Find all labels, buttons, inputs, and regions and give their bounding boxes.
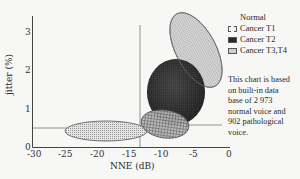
ellipse-normal [65, 121, 147, 141]
y-tick-2: 2 [25, 65, 31, 75]
legend-label-cancer-t2: Cancer T2 [240, 34, 275, 45]
y-axis-label: jitter (%) [4, 54, 14, 95]
note-line-2: on built-in data [228, 86, 300, 97]
x-tick-minus30: -30 [27, 149, 42, 159]
legend-item-cancer-t3t4: Cancer T3,T4 [228, 45, 287, 56]
x-tick-minus5: -5 [189, 149, 198, 159]
legend-swatch-cancer-t3t4-icon [228, 48, 237, 54]
legend-item-normal: Normal [228, 12, 287, 23]
legend-label-cancer-t3t4: Cancer T3,T4 [240, 45, 287, 56]
note-line-3: base of 2 973 [228, 96, 300, 107]
x-tick-minus20: -20 [90, 149, 105, 159]
legend-label-normal: Normal [240, 12, 266, 23]
legend-swatch-normal-icon [228, 26, 237, 32]
y-tick-1: 1 [25, 104, 31, 114]
x-tick-minus15: -15 [122, 149, 137, 159]
x-tick-0: 0 [226, 149, 232, 159]
data-source-note: This chart is based on built-in data bas… [228, 75, 300, 139]
note-line-5: 902 pathological [228, 117, 300, 128]
legend-swatch-cancer-t2-icon [228, 37, 237, 43]
legend: Normal Cancer T1 Cancer T2 Cancer T3,T4 [228, 12, 287, 56]
note-line-4: normal voice and [228, 107, 300, 118]
legend-item-cancer-t2: Cancer T2 [228, 34, 287, 45]
x-tick-minus10: -10 [154, 149, 169, 159]
x-tick-minus25: -25 [58, 149, 73, 159]
y-tick-3: 3 [25, 27, 31, 37]
legend-label-cancer-t1: Cancer T1 [240, 23, 275, 34]
note-line-6: voice. [228, 128, 300, 139]
legend-item-cancer-t1: Cancer T1 [228, 23, 287, 34]
note-line-1: This chart is based [228, 75, 300, 86]
x-axis-label: NNE (dB) [110, 161, 155, 171]
